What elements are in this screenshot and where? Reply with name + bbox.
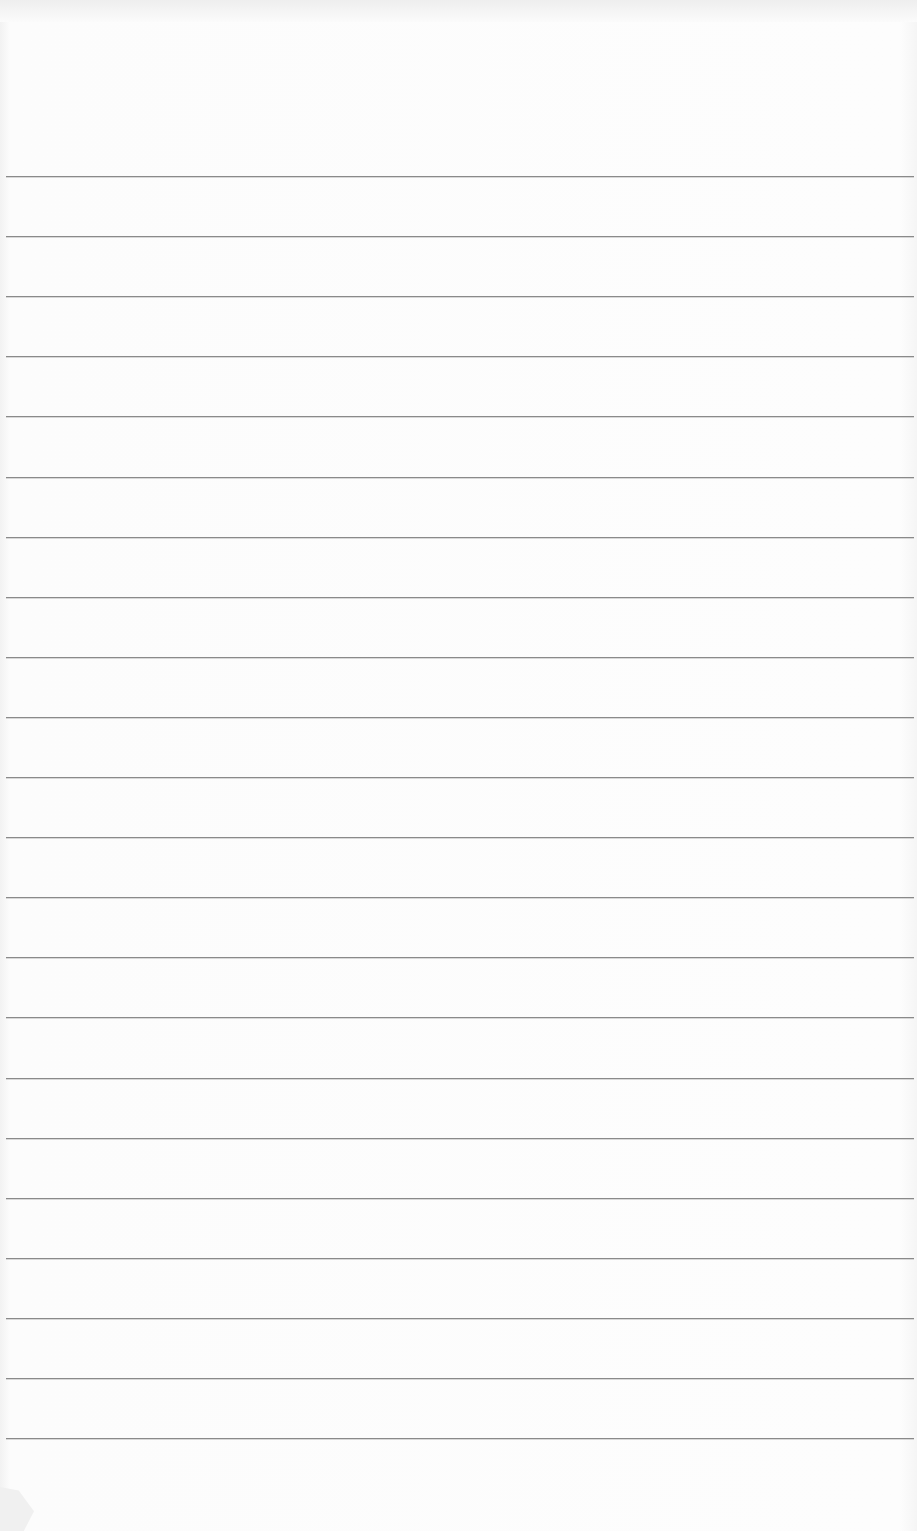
lined-paper-sheet xyxy=(0,0,917,1531)
ruled-line xyxy=(6,176,914,177)
ruled-line xyxy=(6,416,914,417)
ruled-line xyxy=(6,296,914,297)
ruled-line xyxy=(6,837,914,838)
ruled-line xyxy=(6,597,914,598)
ruled-line xyxy=(6,897,914,898)
ruled-line xyxy=(6,1078,914,1079)
ruled-line xyxy=(6,537,914,538)
ruled-line xyxy=(6,717,914,718)
ruled-line xyxy=(6,957,914,958)
ruled-line xyxy=(6,356,914,357)
ruled-line xyxy=(6,1258,914,1259)
ruled-line xyxy=(6,1318,914,1319)
ruled-line xyxy=(6,657,914,658)
ruled-line xyxy=(6,236,914,237)
ruled-line xyxy=(6,1017,914,1018)
paper-top-edge xyxy=(0,0,917,22)
ruled-line xyxy=(6,777,914,778)
ruled-line xyxy=(6,1438,914,1439)
ruled-line xyxy=(6,1378,914,1379)
folded-corner xyxy=(0,1487,34,1531)
ruled-line xyxy=(6,477,914,478)
ruled-line xyxy=(6,1198,914,1199)
ruled-line xyxy=(6,1138,914,1139)
